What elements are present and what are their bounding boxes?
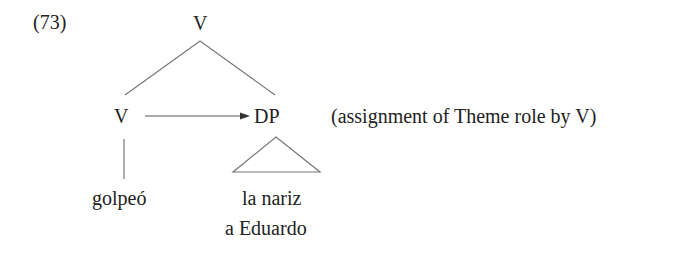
tree-branches xyxy=(0,0,681,256)
triangle-leaf-right xyxy=(233,137,320,172)
right-child-node-label: DP xyxy=(254,106,280,126)
right-leaf-line2: a Eduardo xyxy=(225,218,307,238)
right-leaf-line1: la nariz xyxy=(242,188,301,208)
assignment-arrow xyxy=(145,113,250,120)
branch-right xyxy=(200,41,275,95)
left-leaf-word: golpeó xyxy=(92,188,146,208)
annotation-text: (assignment of Theme role by V) xyxy=(331,106,596,126)
left-child-node-label: V xyxy=(114,106,128,126)
branch-left xyxy=(125,41,200,95)
